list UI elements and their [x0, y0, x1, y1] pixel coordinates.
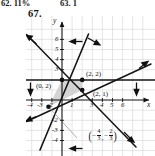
x-tick-label--4: -4 — [27, 101, 33, 109]
previous-exercise-line: 62. 11% 63. 1 — [0, 0, 155, 8]
y-tick-label-3: 3 — [55, 65, 59, 73]
fraction-close-paren: ) — [114, 129, 117, 142]
x-tick-label-1: 1 — [70, 101, 74, 109]
prev-exercise-62: 62. 11% — [1, 0, 30, 8]
y-tick-label--3: -3 — [52, 126, 58, 134]
shaded-region — [49, 80, 83, 107]
point-label-2-2: (2, 2) — [86, 70, 101, 78]
x-tick-label--2: -2 — [47, 101, 53, 109]
y-tick-label-4: 4 — [55, 55, 59, 63]
x-tick-label-6: 6 — [121, 101, 125, 109]
fraction-first-sign: − — [92, 132, 96, 140]
y-tick-label-6: 6 — [55, 35, 59, 43]
fraction-second-sign: − — [104, 132, 108, 140]
fraction-open-paren: ( — [89, 129, 92, 142]
coordinate-graph: y x -4 -3 -2 1 3 4 5 6 6 5 4 3 -2 -3 -4 … — [26, 16, 155, 156]
x-axis-label: x — [147, 100, 150, 109]
y-tick-label--2: -2 — [52, 116, 58, 124]
y-axis-arrow — [60, 22, 65, 28]
vertex-0-2 — [60, 78, 65, 83]
point-label-fraction: ( − 4 3 , − 2 3 ) — [88, 129, 118, 142]
fraction-comma: , — [102, 134, 104, 142]
figure-page: 62. 11% 63. 1 67. — [0, 0, 155, 156]
x-tick-label-3: 3 — [90, 101, 94, 109]
fraction-first-denominator: 3 — [97, 135, 101, 142]
vertex-2-2 — [80, 78, 85, 83]
vertex-2-1 — [80, 88, 85, 93]
prev-exercise-63: 63. 1 — [60, 0, 77, 8]
x-tick-label-5: 5 — [110, 101, 114, 109]
fraction-first: 4 3 — [97, 129, 101, 141]
point-label-0-2: (0, 2) — [36, 82, 51, 90]
fraction-second-denominator: 3 — [109, 135, 113, 142]
fraction-second: 2 3 — [109, 129, 113, 141]
y-axis-label: y — [53, 16, 56, 25]
x-tick-label-4: 4 — [100, 101, 104, 109]
y-tick-label-5: 5 — [55, 45, 59, 53]
x-tick-label--3: -3 — [37, 101, 43, 109]
y-tick-label--4: -4 — [52, 136, 58, 144]
point-label-2-1: (2, 1) — [93, 90, 108, 98]
